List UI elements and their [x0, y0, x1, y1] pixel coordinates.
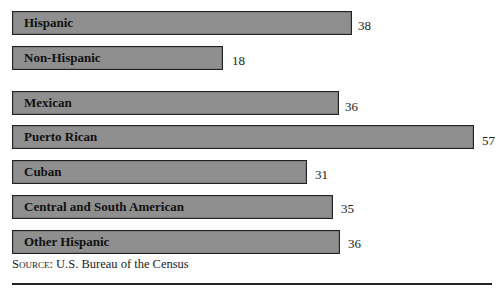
bar-label: Central and South American — [24, 199, 184, 215]
value-label: 36 — [345, 99, 358, 115]
bar-cuban: Cuban — [12, 160, 307, 184]
value-label: 38 — [358, 18, 371, 34]
value-label: 18 — [232, 53, 245, 69]
value-label: 35 — [341, 201, 354, 217]
bar-label: Other Hispanic — [24, 234, 109, 250]
value-label: 57 — [482, 133, 495, 149]
bottom-rule — [12, 283, 492, 285]
bar-label: Non-Hispanic — [24, 50, 101, 66]
bar-label: Mexican — [24, 95, 72, 111]
source-note: Source: U.S. Bureau of the Census — [12, 257, 189, 272]
source-text: U.S. Bureau of the Census — [53, 257, 189, 271]
bar-mexican: Mexican — [12, 91, 339, 115]
bar-label: Cuban — [24, 164, 62, 180]
value-label: 31 — [315, 167, 328, 183]
bar-other-hispanic: Other Hispanic — [12, 230, 340, 254]
bar-hispanic: Hispanic — [12, 11, 352, 35]
bar-puerto-rican: Puerto Rican — [12, 125, 474, 149]
bar-label: Puerto Rican — [24, 129, 97, 145]
source-prefix: Source: — [12, 257, 53, 271]
bar-non-hispanic: Non-Hispanic — [12, 46, 223, 70]
bar-central-south-american: Central and South American — [12, 195, 333, 219]
bar-label: Hispanic — [24, 15, 73, 31]
value-label: 36 — [348, 236, 361, 252]
